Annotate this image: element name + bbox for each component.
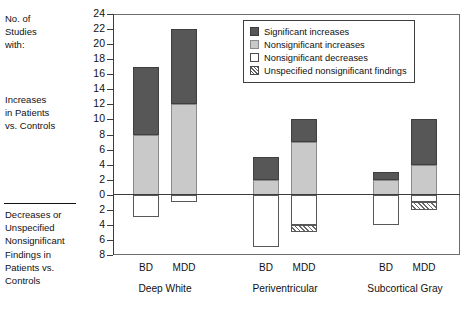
bar-segment: [291, 119, 317, 142]
legend-item-label: Nonsignificant decreases: [264, 53, 368, 63]
x-group-label: Deep White: [100, 283, 230, 294]
bar-segment: [373, 180, 399, 195]
y-tick-mark: [107, 255, 113, 256]
bar-segment: [171, 195, 197, 203]
y-tick-label: 10: [0, 112, 105, 124]
y-tick-label: 8: [0, 248, 105, 260]
bar-segment: [373, 172, 399, 180]
chart-root: No. of Studies with: Increases in Patien…: [0, 0, 465, 315]
y-tick-label: 2: [0, 203, 105, 215]
legend: Significant increasesNonsignificant incr…: [243, 20, 415, 83]
bar-segment: [373, 195, 399, 225]
x-tick-label: MDD: [401, 262, 447, 273]
y-tick-label: 16: [0, 67, 105, 79]
zero-baseline: [113, 194, 460, 195]
y-tick-label: 22: [0, 22, 105, 34]
x-tick-label: MDD: [161, 262, 207, 273]
white-swatch: [250, 53, 259, 62]
legend-item: Nonsignificant increases: [250, 38, 407, 51]
bar-segment: [253, 195, 279, 248]
bar-segment: [411, 165, 437, 195]
light-gray-filled-swatch: [250, 40, 259, 49]
legend-item-label: Nonsignificant increases: [264, 40, 365, 50]
x-group-label: Subcortical Gray: [340, 283, 465, 294]
y-tick-label: 6: [0, 233, 105, 245]
bar-segment: [411, 195, 437, 203]
y-tick-label: 24: [0, 7, 105, 19]
y-tick-label: 6: [0, 143, 105, 155]
y-tick-label: 14: [0, 82, 105, 94]
legend-item: Nonsignificant decreases: [250, 51, 407, 64]
y-tick-label: 20: [0, 37, 105, 49]
legend-item-label: Unspecified nonsignificant findings: [264, 66, 407, 76]
bar-segment: [291, 142, 317, 195]
bar-segment: [411, 119, 437, 164]
x-tick-label: MDD: [281, 262, 327, 273]
bar-segment: [133, 195, 159, 218]
legend-item-label: Significant increases: [264, 27, 349, 37]
hatched-swatch: [250, 66, 259, 75]
y-axis-line: [113, 14, 114, 255]
bar-segment: [253, 157, 279, 180]
bar-segment: [133, 135, 159, 195]
bar-segment: [291, 195, 317, 225]
dark-gray-filled-swatch: [250, 27, 259, 36]
bar-segment: [253, 180, 279, 195]
bar-segment: [411, 202, 437, 210]
y-tick-label: 4: [0, 218, 105, 230]
y-tick-label: 18: [0, 52, 105, 64]
y-tick-label: 0: [0, 188, 105, 200]
y-tick-label: 4: [0, 158, 105, 170]
legend-item: Unspecified nonsignificant findings: [250, 64, 407, 77]
y-tick-label: 8: [0, 128, 105, 140]
bar-segment: [133, 67, 159, 135]
y-tick-label: 2: [0, 173, 105, 185]
bar-segment: [171, 29, 197, 104]
bar-segment: [291, 225, 317, 233]
legend-item: Significant increases: [250, 25, 407, 38]
x-group-label: Periventricular: [220, 283, 350, 294]
bar-segment: [171, 104, 197, 194]
y-tick-label: 12: [0, 97, 105, 109]
